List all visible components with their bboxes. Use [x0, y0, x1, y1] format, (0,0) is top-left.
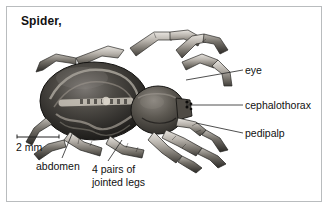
label-jointed-legs-line2: jointed legs	[92, 176, 145, 188]
label-pedipalp: pedipalp	[245, 127, 285, 140]
scale-bar-label: 2 mm	[16, 141, 42, 154]
leader-line-pedipalp	[196, 123, 243, 133]
figure-root: Spider,	[0, 0, 330, 217]
label-eye: eye	[245, 64, 262, 77]
leader-line-legs	[108, 140, 122, 161]
label-jointed-legs-line1: 4 pairs of	[92, 163, 135, 175]
label-jointed-legs: 4 pairs of jointed legs	[92, 163, 166, 189]
leader-line-eye	[186, 70, 243, 80]
leader-line-abdomen	[62, 134, 72, 158]
scale-bar-icon	[16, 134, 60, 139]
label-cephalothorax: cephalothorax	[245, 99, 311, 112]
label-abdomen: abdomen	[36, 160, 80, 173]
